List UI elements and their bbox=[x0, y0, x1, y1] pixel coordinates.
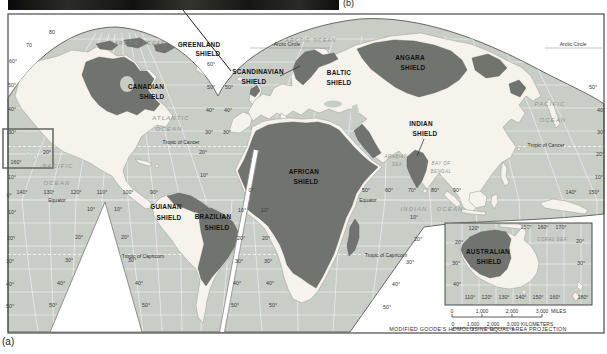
graticule-label: 40° bbox=[135, 280, 143, 286]
graticule-label: 120° bbox=[469, 225, 480, 231]
graticule-label: 130° bbox=[44, 189, 55, 195]
graticule-label: 50° bbox=[231, 302, 239, 308]
graticule-label: 20° bbox=[414, 236, 422, 242]
graticule-label: 40° bbox=[206, 107, 214, 113]
graticule-label: 30° bbox=[223, 129, 231, 135]
graticule-label: 10° bbox=[87, 206, 95, 212]
graticule-label: 10° bbox=[8, 174, 16, 180]
graticule-label: 60° bbox=[207, 61, 215, 67]
graticule-label: 10° bbox=[595, 174, 603, 180]
graticule-label: 50° bbox=[8, 82, 16, 88]
graticule-label: 100° bbox=[123, 189, 134, 195]
graticule-label: 140° bbox=[566, 189, 577, 195]
graticule-label: 30° bbox=[452, 260, 460, 266]
graticule-label: 30° bbox=[577, 260, 585, 266]
graticule-label: 40° bbox=[224, 107, 232, 113]
graticule-label: 150° bbox=[533, 294, 544, 300]
graticule-label: 50° bbox=[142, 302, 150, 308]
graticule-label: 50° bbox=[269, 302, 277, 308]
panel-a-label: (a) bbox=[2, 336, 14, 347]
label-arctic-circle-west: Arctic Circle bbox=[274, 41, 301, 47]
graticule-label: 50° bbox=[49, 302, 57, 308]
graticule-label: 0° bbox=[248, 187, 253, 193]
label-arctic-ocean-west: ARCTIC OCEAN bbox=[114, 40, 166, 46]
graticule-label: 40° bbox=[57, 280, 65, 286]
photo-thumbnail-strip bbox=[8, 0, 339, 10]
graticule-label: 20° bbox=[43, 149, 51, 155]
graticule-label: 70 bbox=[26, 42, 32, 48]
graticule-label: 160° bbox=[550, 294, 561, 300]
graticule-label: 110° bbox=[465, 294, 476, 300]
graticule-label: 120° bbox=[71, 189, 82, 195]
graticule-label: 10° bbox=[410, 214, 418, 220]
graticule-label: 80 bbox=[49, 29, 55, 35]
graticule-label: 160° bbox=[11, 159, 22, 165]
graticule-label: 40° bbox=[6, 281, 14, 287]
graticule-label: 20° bbox=[121, 234, 129, 240]
graticule-label: 40° bbox=[392, 281, 400, 287]
graticule-label: 30° bbox=[128, 257, 136, 263]
landmass-sri-lanka bbox=[423, 189, 427, 193]
graticule-label: 50° bbox=[362, 187, 370, 193]
miles-tick: 2,000 bbox=[506, 308, 519, 314]
graticule-label: 70° bbox=[408, 187, 416, 193]
graticule-label: 160° bbox=[538, 224, 549, 230]
label-tropic-capricorn-east: Tropic of Capricorn bbox=[365, 252, 408, 258]
graticule-label: 50° bbox=[225, 84, 233, 90]
label-tropic-cancer-east: Tropic of Cancer bbox=[528, 142, 565, 148]
graticule-label: 10° bbox=[8, 209, 16, 215]
graticule-label: 170° bbox=[556, 224, 567, 230]
graticule-label: 50° bbox=[6, 303, 14, 309]
graticule-label: 140° bbox=[516, 294, 527, 300]
australia-inset: AUSTRALIAN SHIELD CORAL SEA bbox=[445, 223, 592, 305]
graticule-label: 150° bbox=[589, 189, 600, 195]
graticule-label: 120° bbox=[482, 294, 493, 300]
label-coral-sea: CORAL SEA bbox=[537, 237, 567, 242]
miles-unit: MILES bbox=[551, 308, 567, 314]
graticule-label: 20° bbox=[237, 235, 245, 241]
graticule-label: 150° bbox=[521, 224, 532, 230]
projection-caption: MODIFIED GOODE'S HOMOLOSINE EQUAL-AREA P… bbox=[389, 326, 566, 332]
graticule-label: 10° bbox=[200, 172, 208, 178]
graticule-label: 90° bbox=[453, 187, 461, 193]
graticule-label: 50° bbox=[383, 304, 391, 310]
graticule-label: 40° bbox=[453, 281, 461, 287]
graticule-label: 90° bbox=[150, 189, 158, 195]
graticule-label: 30° bbox=[205, 129, 213, 135]
graticule-label: 30° bbox=[235, 258, 243, 264]
label-arctic-circle-east: Arctic Circle bbox=[560, 41, 587, 47]
graticule-label: 180° bbox=[578, 294, 589, 300]
graticule-label: 140° bbox=[17, 189, 28, 195]
graticule-label: 60° bbox=[9, 58, 17, 64]
graticule-label: 30° bbox=[65, 257, 73, 263]
graticule-label: 20° bbox=[75, 234, 83, 240]
graticule-label: 20° bbox=[262, 235, 270, 241]
graticule-label: 0° bbox=[6, 192, 11, 198]
panel-b-label: (b) bbox=[343, 0, 354, 8]
graticule-label: 60° bbox=[385, 187, 393, 193]
graticule-label: 130° bbox=[499, 294, 510, 300]
figure-shields-map: (b) (a) bbox=[0, 0, 607, 354]
graticule-label: 10° bbox=[261, 207, 269, 213]
graticule-label: 40° bbox=[8, 106, 16, 112]
graticule-label: 30° bbox=[6, 258, 14, 264]
graticule-label: 20° bbox=[576, 238, 584, 244]
graticule-label: 50° bbox=[207, 84, 215, 90]
miles-tick: 0 bbox=[451, 308, 454, 314]
graticule-label: 30° bbox=[264, 258, 272, 264]
world-shields-map: AUSTRALIAN SHIELD CORAL SEA GREENLANDSHI… bbox=[0, 0, 607, 354]
label-equator-west: Equator bbox=[48, 197, 66, 203]
miles-tick: 3,000 bbox=[536, 308, 549, 314]
label-tropic-cancer-west: Tropic of Cancer bbox=[163, 139, 200, 145]
graticule-label: 10° bbox=[114, 206, 122, 212]
graticule-label: 20° bbox=[455, 239, 463, 245]
graticule-label: 20° bbox=[596, 151, 604, 157]
graticule-label: 40° bbox=[233, 280, 241, 286]
landmass-hispaniola bbox=[156, 165, 159, 168]
graticule-label: 40° bbox=[266, 280, 274, 286]
label-equator-east: Equator bbox=[359, 197, 377, 203]
graticule-label: 30° bbox=[8, 129, 16, 135]
graticule-label: 110° bbox=[97, 189, 108, 195]
graticule-label: 30° bbox=[406, 259, 414, 265]
black-sea bbox=[324, 101, 342, 108]
